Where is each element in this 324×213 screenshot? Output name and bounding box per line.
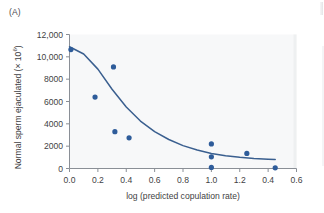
data-point [209, 165, 214, 170]
x-tick-label: 0.0 [64, 175, 76, 185]
x-tick-label: 0.4 [120, 175, 132, 185]
x-tick-label: 0.2 [92, 175, 104, 185]
y-tick-label: 10,000 [37, 52, 64, 62]
x-tick-label: 0.8 [177, 175, 189, 185]
x-axis-ticks: 0.00.20.40.60.81.01.20.40.6 [64, 169, 303, 185]
data-point [92, 94, 97, 99]
data-point [209, 141, 214, 146]
data-point [68, 47, 73, 52]
x-tick-label: 1.0 [205, 175, 217, 185]
y-tick-label: 4000 [44, 119, 63, 129]
x-tick-label: 0.4 [262, 175, 274, 185]
y-tick-label: 0 [58, 164, 63, 174]
x-tick-label: 0.6 [291, 175, 303, 185]
x-tick-label: 0.6 [149, 175, 161, 185]
y-tick-label: 8000 [44, 74, 63, 84]
plot-background-group [70, 35, 297, 169]
plot-background-shade [294, 35, 297, 169]
figure-panel-a: (A) Normal sperm ejaculated (× 106) log … [0, 0, 324, 213]
data-point [244, 151, 249, 156]
x-tick-label: 1.2 [234, 175, 246, 185]
data-point [112, 129, 117, 134]
data-point [273, 165, 278, 170]
data-point [126, 135, 131, 140]
data-point [209, 154, 214, 159]
plot-background [70, 35, 297, 169]
y-tick-label: 6000 [44, 97, 63, 107]
y-tick-label: 2000 [44, 141, 63, 151]
chart-plot: 0200040006000800010,00012,000 0.00.20.40… [0, 0, 324, 213]
data-point [111, 64, 116, 69]
y-tick-label: 12,000 [37, 30, 64, 40]
y-axis-ticks: 0200040006000800010,00012,000 [37, 30, 70, 174]
